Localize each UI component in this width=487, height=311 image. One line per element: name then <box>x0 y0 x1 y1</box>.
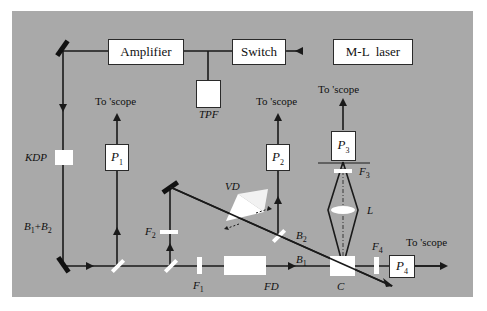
crystal-label: C <box>337 280 344 292</box>
p3-box: P3 <box>331 131 356 161</box>
amplifier-box: Amplifier <box>108 39 184 65</box>
switch-label: Switch <box>241 44 277 60</box>
p1-box: P1 <box>105 144 129 171</box>
filter-f2 <box>160 230 178 234</box>
filter-f3 <box>334 169 352 173</box>
lens <box>331 206 355 214</box>
f3-label: F3 <box>359 165 370 180</box>
laser-label: M-L laser <box>346 44 400 60</box>
filter-f4 <box>374 257 379 274</box>
p4-label: P4 <box>396 258 408 276</box>
kdp-label: KDP <box>25 151 47 163</box>
fd-label: FD <box>264 280 279 292</box>
tpf-label: TPF <box>199 108 219 120</box>
p2-box: P2 <box>266 144 290 171</box>
f4-label: F4 <box>372 240 383 255</box>
p2-label: P2 <box>272 149 284 167</box>
scope-label-p3: To 'scope <box>318 83 359 95</box>
f2-label: F2 <box>145 225 156 240</box>
p4-box: P4 <box>389 255 415 278</box>
p1-label: P1 <box>111 149 123 167</box>
laser-box: M-L laser <box>333 39 413 65</box>
amplifier-label: Amplifier <box>120 44 171 60</box>
tpf-box <box>196 80 221 108</box>
f1-label: F1 <box>193 279 204 294</box>
vd-label: VD <box>225 180 240 192</box>
scope-label-p4: To 'scope <box>406 236 447 248</box>
scope-label-p2: To 'scope <box>256 95 297 107</box>
switch-box: Switch <box>232 39 286 65</box>
b2-label: B2 <box>296 229 307 244</box>
kdp-block <box>55 150 73 165</box>
scope-label-p1: To 'scope <box>95 95 136 107</box>
filter-f1 <box>197 257 202 274</box>
crystal-c <box>330 256 355 276</box>
b1-label: B1 <box>296 253 307 268</box>
b1-plus-b2-label: B1+B2 <box>24 220 52 235</box>
p3-label: P3 <box>338 137 350 155</box>
lens-label: L <box>367 204 373 216</box>
fd-block <box>224 256 266 275</box>
